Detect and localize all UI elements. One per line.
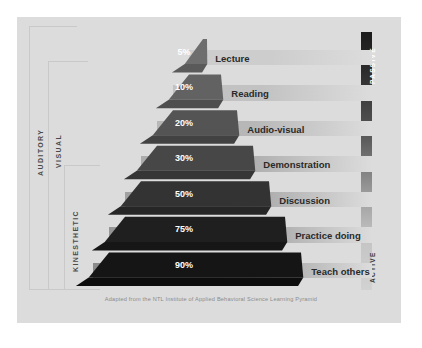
tier-label-2: Reading	[231, 88, 268, 99]
tier-label-6: Practice doing	[295, 230, 360, 241]
tier-label-5: Discussion	[279, 195, 330, 206]
tier-percent-3: 20%	[162, 118, 206, 128]
tier-percent-2: 10%	[162, 82, 206, 92]
tier-label-4: Demonstration	[263, 159, 330, 170]
pyramid-tier-face-5	[108, 206, 271, 215]
learning-pyramid-figure: AUDITORY VISUAL KINESTHETIC PASSIVE ACTI…	[0, 0, 422, 348]
tier-percent-5: 50%	[162, 189, 206, 199]
tier-percent-4: 30%	[162, 153, 206, 163]
pyramid-tier-face-7	[76, 278, 303, 287]
tier-label-1: Lecture	[215, 53, 249, 64]
tier-label-3: Audio-visual	[247, 124, 304, 135]
figure-caption: Adapted from the NTL Institute of Applie…	[0, 296, 422, 302]
pyramid-tier-face-3	[140, 135, 239, 144]
tier-percent-7: 90%	[162, 260, 206, 270]
pyramid-tier-face-6	[92, 242, 287, 251]
pyramid-tier-face-2	[156, 100, 223, 109]
tier-percent-1: 5%	[162, 47, 206, 57]
tier-label-7: Teach others	[311, 266, 369, 277]
pyramid-tier-face-1	[172, 64, 207, 73]
pyramid-tier-face-4	[124, 171, 255, 180]
tier-percent-6: 75%	[162, 224, 206, 234]
